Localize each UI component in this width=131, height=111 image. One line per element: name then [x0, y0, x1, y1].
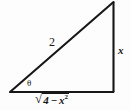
radicand-group: 4−x2 [42, 93, 69, 106]
angle-theta-label: θ [27, 79, 31, 88]
hypotenuse-line [10, 2, 114, 92]
radicand-minus-sign: − [49, 94, 59, 106]
adjacent-side-label: √ 4−x2 [35, 93, 69, 106]
opposite-side-label: x [118, 45, 124, 56]
right-triangle-diagram: 2 x θ √ 4−x2 [0, 0, 131, 111]
hypotenuse-label: 2 [49, 36, 55, 48]
radicand-exponent: 2 [64, 93, 68, 101]
radicand-number: 4 [43, 94, 49, 106]
radical-sign-icon: √ [35, 93, 42, 104]
